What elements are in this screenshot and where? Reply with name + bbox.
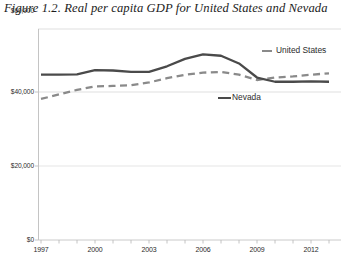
x-tick-label-2006: 2006 xyxy=(188,246,218,253)
legend-swatch-nevada xyxy=(218,97,231,100)
chart-canvas: $60,000 $40,000 $20,000 $0 1997 2000 200… xyxy=(0,18,343,258)
x-tick-label-1997: 1997 xyxy=(26,246,56,253)
y-tick-label-0: $0 xyxy=(0,236,34,243)
legend-label-united-states: United States xyxy=(276,45,326,55)
series-line-nevada xyxy=(41,54,329,81)
x-tick-label-2009: 2009 xyxy=(242,246,272,253)
x-tick-label-2000: 2000 xyxy=(80,246,110,253)
x-tick-label-2003: 2003 xyxy=(134,246,164,253)
legend-label-nevada: Nevada xyxy=(232,92,261,102)
y-tick-label-60000: $60,000 xyxy=(0,7,34,14)
gridlines xyxy=(38,29,341,240)
legend-swatch-united-states xyxy=(262,50,272,52)
y-axis-ticks xyxy=(35,92,38,240)
page-title: Figure 1.2. Real per capita GDP for Unit… xyxy=(4,1,340,16)
x-tick-label-2012: 2012 xyxy=(296,246,326,253)
y-tick-label-20000: $20,000 xyxy=(0,162,34,169)
series-line-united-states xyxy=(41,72,329,99)
figure-container: Figure 1.2. Real per capita GDP for Unit… xyxy=(0,0,343,258)
x-axis-ticks xyxy=(41,240,329,244)
y-tick-label-40000: $40,000 xyxy=(0,88,34,95)
